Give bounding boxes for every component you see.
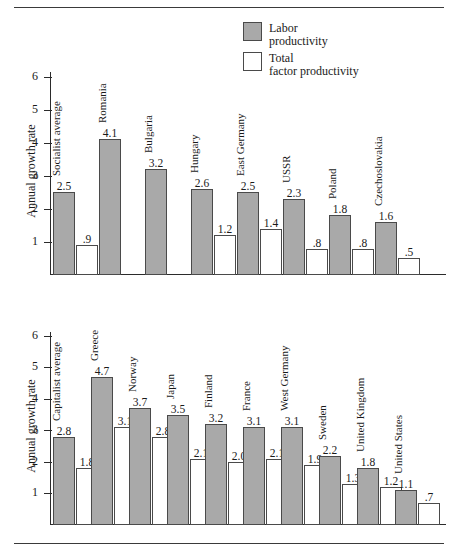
category-label: Poland xyxy=(327,169,338,200)
bar-value-label: 2.6 xyxy=(195,177,209,189)
plot-area-socialist: 2.5.9Socialist average4.1Romania3.2Bulga… xyxy=(51,60,446,275)
category-label: Czechoslovakia xyxy=(373,136,384,206)
bar-value-label: 2.5 xyxy=(241,180,255,192)
category-label: Norway xyxy=(127,357,138,392)
bar-labor-productivity: 4.7 xyxy=(91,377,113,525)
bar-labor-productivity: 2.3 xyxy=(283,199,305,275)
bar-value-label: 2.5 xyxy=(57,180,71,192)
bar-value-label: .9 xyxy=(83,233,92,245)
y-tick-label: 6 xyxy=(22,329,38,342)
bar-labor-productivity: 2.5 xyxy=(53,192,75,275)
bar-labor-productivity: 2.2 xyxy=(319,456,341,525)
bottom-divider-rule xyxy=(14,543,444,544)
y-tick-label: 1 xyxy=(22,486,38,499)
bar-group: 2.61.2Hungary xyxy=(191,60,237,275)
bar-value-label: 1.2 xyxy=(218,223,232,235)
bar-value-label: 4.7 xyxy=(95,365,109,377)
bar-total-factor-productivity: .8 xyxy=(306,249,328,275)
bar-value-label: .8 xyxy=(313,237,322,249)
legend-label-labor: Labor productivity xyxy=(269,22,328,48)
y-tick-label: 1 xyxy=(22,235,38,248)
category-label: Finland xyxy=(203,374,214,408)
bar-labor-productivity: 1.8 xyxy=(329,215,351,275)
bar-value-label: 1.8 xyxy=(361,456,375,468)
bar-value-label: 3.2 xyxy=(149,157,163,169)
bar-labor-productivity: 3.2 xyxy=(205,424,227,525)
bar-group: 2.5.9Socialist average xyxy=(53,60,99,275)
bar-value-label: 1.4 xyxy=(264,217,278,229)
bar-labor-productivity: 3.5 xyxy=(167,415,189,525)
bar-value-label: .7 xyxy=(425,491,434,503)
bar-value-label: 3.1 xyxy=(247,415,261,427)
category-label: Romania xyxy=(97,84,108,124)
category-label: Japan xyxy=(165,374,176,399)
bar-total-factor-productivity: .7 xyxy=(418,503,440,525)
bar-total-factor-productivity: .9 xyxy=(76,245,98,275)
y-tick-label: 2 xyxy=(22,202,38,215)
bar-value-label: 3.7 xyxy=(133,396,147,408)
bar-group: 1.8.8Poland xyxy=(329,60,375,275)
category-label: Sweden xyxy=(317,405,328,440)
bar-value-label: 2.2 xyxy=(323,444,337,456)
y-tick-label: 6 xyxy=(22,70,38,83)
category-label: West Germany xyxy=(279,346,290,411)
category-label: USSR xyxy=(281,155,292,183)
bar-group: 1.1.7United States xyxy=(395,320,441,525)
bar-labor-productivity: 3.1 xyxy=(243,427,265,525)
y-tick-label: 3 xyxy=(22,423,38,436)
category-label: United States xyxy=(393,415,404,474)
category-label: Bulgaria xyxy=(143,115,154,153)
bar-total-factor-productivity: 1.4 xyxy=(260,229,282,275)
top-divider-rule xyxy=(14,7,444,8)
bar-labor-productivity: 3.7 xyxy=(129,408,151,525)
bar-labor-productivity: 4.1 xyxy=(99,139,121,275)
category-label: Greece xyxy=(89,330,100,361)
bar-labor-productivity: 3.2 xyxy=(145,169,167,275)
bar-value-label: 3.2 xyxy=(209,412,223,424)
category-label: Socialist average xyxy=(51,101,62,176)
bar-group: 4.1Romania xyxy=(99,60,145,275)
bar-total-factor-productivity: 1.2 xyxy=(214,235,236,275)
category-label: Hungary xyxy=(189,135,200,174)
bar-group: 2.3.8USSR xyxy=(283,60,329,275)
y-tick-label: 5 xyxy=(22,103,38,116)
y-tick-label: 4 xyxy=(22,136,38,149)
bar-value-label: .5 xyxy=(405,246,414,258)
chart-capitalist-countries: Annual growth rate 123456 2.81.8Capitali… xyxy=(0,320,456,532)
bar-value-label: .8 xyxy=(359,237,368,249)
figure-page: Labor productivity Total factor producti… xyxy=(0,0,456,553)
category-label: France xyxy=(241,381,252,411)
bar-value-label: 1.1 xyxy=(399,478,413,490)
bar-labor-productivity: 1.1 xyxy=(395,490,417,525)
legend-swatch-labor xyxy=(243,22,262,41)
bar-total-factor-productivity: .5 xyxy=(398,258,420,275)
bar-labor-productivity: 1.8 xyxy=(357,468,379,525)
bar-labor-productivity: 2.5 xyxy=(237,192,259,275)
bar-labor-productivity: 1.6 xyxy=(375,222,397,275)
legend-item-labor: Labor productivity xyxy=(243,22,433,48)
legend-label-labor-line2: productivity xyxy=(269,34,328,48)
legend-label-labor-line1: Labor xyxy=(269,21,298,35)
bar-group: 2.51.4East Germany xyxy=(237,60,283,275)
category-label: Capitalist average xyxy=(51,342,62,421)
bar-labor-productivity: 3.1 xyxy=(281,427,303,525)
bar-value-label: 4.1 xyxy=(103,127,117,139)
y-tick-label: 3 xyxy=(22,169,38,182)
chart-socialist-countries: Annual growth rate 123456 2.5.9Socialist… xyxy=(0,60,456,282)
bar-labor-productivity: 2.6 xyxy=(191,189,213,275)
category-label: United Kingdom xyxy=(355,378,366,452)
bar-value-label: 2.3 xyxy=(287,187,301,199)
y-tick-label: 4 xyxy=(22,392,38,405)
bar-labor-productivity: 2.8 xyxy=(53,437,75,525)
bar-value-label: 2.8 xyxy=(57,425,71,437)
plot-area-capitalist: 2.81.8Capitalist average4.73.1Greece3.72… xyxy=(51,320,446,525)
category-label: East Germany xyxy=(235,114,246,177)
bar-value-label: 1.8 xyxy=(333,203,347,215)
y-tick-label: 2 xyxy=(22,455,38,468)
bar-value-label: 3.1 xyxy=(285,415,299,427)
bar-total-factor-productivity: .8 xyxy=(352,249,374,275)
bar-value-label: 3.5 xyxy=(171,403,185,415)
y-tick-label: 5 xyxy=(22,360,38,373)
bar-group: 1.6.5Czechoslovakia xyxy=(375,60,421,275)
bar-group: 3.2Bulgaria xyxy=(145,60,191,275)
